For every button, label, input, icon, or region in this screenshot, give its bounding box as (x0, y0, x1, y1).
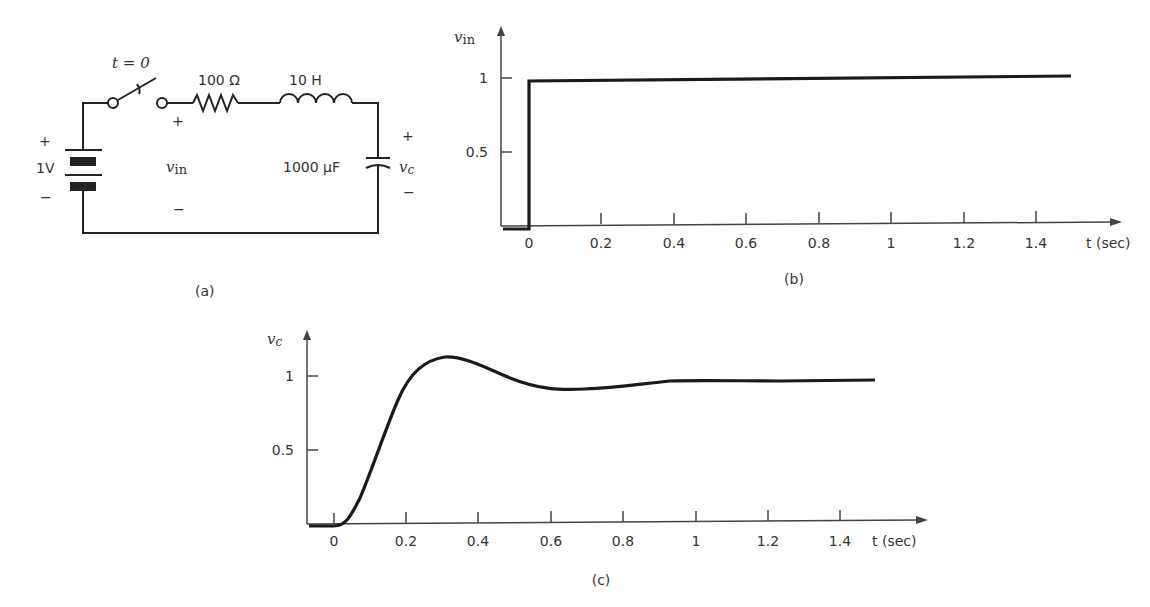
caption-c: (c) (592, 572, 611, 588)
chart-vin: 0 0.2 0.4 0.6 0.8 1 1.2 1.4 t (sec) 1 0.… (454, 26, 1130, 287)
x-tick-label: 0 (525, 235, 534, 251)
resistor-icon (193, 95, 238, 111)
source-label: 1V (36, 160, 55, 176)
x-axis (307, 520, 918, 524)
x-tick-label: 1.4 (1025, 235, 1047, 251)
source-plus: + (39, 133, 51, 149)
x-tick-label: 0 (330, 533, 339, 549)
switch-label: t = 0 (112, 54, 150, 72)
x-axis-label: t (sec) (1086, 235, 1130, 251)
capacitor-label: 1000 μF (283, 159, 340, 175)
x-tick-label: 0.4 (663, 235, 685, 251)
caption-b: (b) (784, 271, 804, 287)
inductor-icon (280, 94, 352, 103)
x-tick-label: 1.4 (829, 533, 851, 549)
x-tick-label: 1.2 (953, 235, 975, 251)
switch-terminal-right (157, 98, 167, 108)
y-axis-label: vin (454, 28, 476, 47)
switch-blade (118, 78, 156, 100)
resistor-label: 100 Ω (198, 72, 240, 88)
vin-minus: − (173, 201, 185, 217)
x-tick-label: 1.2 (757, 533, 779, 549)
x-axis-arrow-icon (916, 516, 928, 524)
x-tick-label: 0.8 (612, 533, 634, 549)
caption-a: (a) (195, 283, 215, 299)
y-tick-label: 1 (285, 368, 294, 384)
vc-plus: + (402, 128, 414, 144)
vin-plus: + (172, 113, 184, 129)
x-tick-label: 0.6 (735, 235, 757, 251)
chart-vc: 0 0.2 0.4 0.6 0.8 1 1.2 1.4 t (sec) 1 0.… (267, 330, 928, 588)
switch-terminal-left (108, 98, 118, 108)
vc-series-line (309, 357, 875, 526)
circuit-diagram (65, 78, 390, 233)
x-tick-label: 1 (692, 533, 701, 549)
y-tick-label: 0.5 (466, 144, 488, 160)
y-tick-label: 0.5 (272, 442, 294, 458)
x-tick-label: 0.4 (467, 533, 489, 549)
x-axis (501, 222, 1112, 226)
figure-canvas: t = 0 100 Ω 10 H 1000 μF 1V + − + vin − … (0, 0, 1150, 607)
battery-icon (71, 158, 95, 165)
vin-series-line (503, 76, 1071, 229)
y-axis-label: vc (267, 330, 282, 349)
vin-label: vin (166, 158, 188, 177)
wire-left-top (83, 103, 108, 150)
x-tick-label: 1 (887, 235, 896, 251)
vc-label: vc (399, 158, 414, 177)
x-tick-label: 0.2 (590, 235, 612, 251)
x-tick-label: 0.6 (540, 533, 562, 549)
vc-minus: − (403, 184, 415, 200)
y-axis-arrow-icon (303, 330, 311, 340)
source-minus: − (40, 189, 52, 205)
x-tick-label: 0.8 (808, 235, 830, 251)
y-tick-label: 1 (479, 70, 488, 86)
x-tick-label: 0.2 (395, 533, 417, 549)
x-axis-label: t (sec) (872, 533, 916, 549)
x-axis-arrow-icon (1110, 218, 1122, 226)
y-axis-arrow-icon (497, 26, 505, 36)
inductor-label: 10 H (289, 72, 322, 88)
